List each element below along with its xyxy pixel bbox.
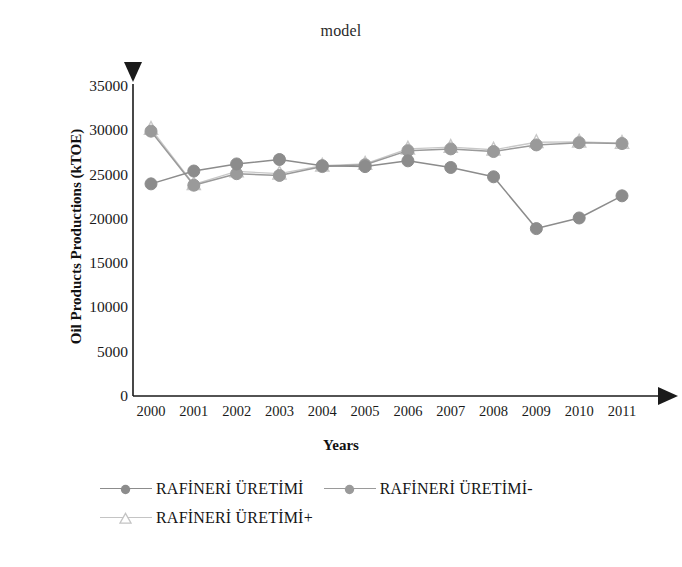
- data-point-marker: [359, 161, 371, 173]
- data-point-marker: [145, 178, 157, 190]
- data-point-marker: [573, 212, 585, 224]
- data-point-marker: [145, 125, 157, 137]
- legend-item[interactable]: RAFİNERİ ÜRETİMİ-: [324, 480, 533, 498]
- series-line: [151, 160, 622, 229]
- series-line: [151, 129, 622, 184]
- legend-label: RAFİNERİ ÜRETİMİ-: [380, 480, 533, 498]
- legend-row: RAFİNERİ ÜRETİMİRAFİNERİ ÜRETİMİ-: [100, 474, 620, 503]
- legend-marker-shape: [119, 512, 132, 525]
- data-point-marker: [616, 190, 628, 202]
- series-line: [151, 131, 622, 185]
- legend-item[interactable]: RAFİNERİ ÜRETİMİ: [100, 480, 304, 498]
- legend-circle-marker-icon: [100, 480, 152, 498]
- data-point-marker: [616, 138, 628, 150]
- series-2: [145, 125, 628, 191]
- chart-figure: model Oil Products Productions (kTOE) 05…: [0, 0, 682, 567]
- data-point-marker: [316, 160, 328, 172]
- data-point-marker: [231, 158, 243, 170]
- legend-circle-marker-icon: [324, 480, 376, 498]
- legend-item[interactable]: RAFİNERİ ÜRETİMİ+: [100, 509, 313, 527]
- data-point-marker: [530, 223, 542, 235]
- legend-marker-shape: [343, 483, 356, 496]
- legend-label: RAFİNERİ ÜRETİMİ: [156, 480, 304, 498]
- chart-legend: RAFİNERİ ÜRETİMİRAFİNERİ ÜRETİMİ-RAFİNER…: [100, 474, 620, 532]
- data-point-marker: [188, 179, 200, 191]
- data-point-marker: [488, 146, 500, 158]
- data-point-marker: [402, 155, 414, 167]
- legend-label: RAFİNERİ ÜRETİMİ+: [156, 509, 313, 527]
- data-point-marker: [273, 169, 285, 181]
- data-point-marker: [488, 171, 500, 183]
- series-1: [145, 154, 628, 235]
- data-point-marker: [445, 161, 457, 173]
- legend-marker-shape: [119, 483, 132, 496]
- y-axis-arrow-icon: [124, 62, 142, 82]
- data-point-marker: [573, 137, 585, 149]
- data-point-marker: [445, 143, 457, 155]
- data-point-marker: [530, 139, 542, 151]
- legend-row: RAFİNERİ ÜRETİMİ+: [100, 503, 620, 532]
- x-axis-arrow-icon: [658, 387, 678, 405]
- legend-triangle-marker-icon: [100, 509, 152, 527]
- data-point-marker: [273, 154, 285, 166]
- data-point-marker: [188, 165, 200, 177]
